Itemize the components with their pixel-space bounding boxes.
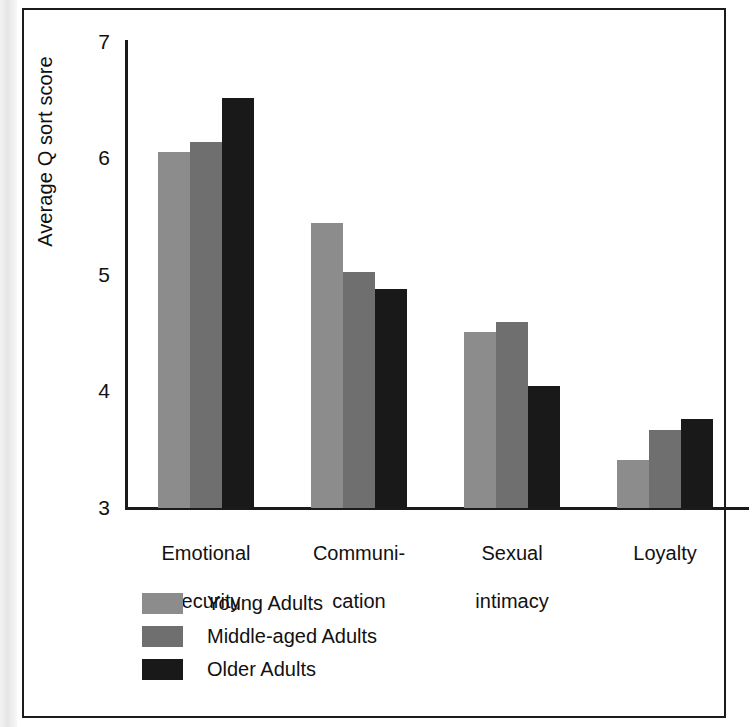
category-label-loyalty: Loyalty [565,517,753,613]
y-tick-7: 7 [84,31,110,52]
bar-middle-communication[interactable] [343,272,375,508]
plot-area [125,42,749,508]
bar-older-sexual-intimacy[interactable] [528,386,560,508]
y-tick-3: 3 [84,497,110,518]
bar-middle-loyalty[interactable] [649,430,681,508]
category-line-1: Sexual [481,542,542,564]
bar-young-communication[interactable] [311,223,343,508]
bar-older-emotional-security[interactable] [222,98,254,508]
figure-frame: Average Q sort score 7 6 5 4 3 [22,8,726,718]
bar-young-loyalty[interactable] [617,460,649,508]
category-line-1: Communi- [313,542,405,564]
legend-swatch-young-adults [142,593,183,614]
page-gutter-shadow [0,0,17,727]
bar-older-communication[interactable] [375,289,407,508]
y-tick-5: 5 [84,264,110,285]
legend: Young Adults Middle-aged Adults Older Ad… [142,588,377,687]
legend-item-young-adults[interactable]: Young Adults [142,588,377,618]
legend-label-older-adults: Older Adults [207,658,316,681]
bar-young-sexual-intimacy[interactable] [464,332,496,508]
bar-middle-emotional-security[interactable] [190,142,222,508]
legend-label-young-adults: Young Adults [207,592,323,615]
y-axis-title: Average Q sort score [34,0,57,317]
category-line-2: intimacy [475,590,548,612]
bar-young-emotional-security[interactable] [158,152,190,508]
y-tick-6: 6 [84,147,110,168]
bar-middle-sexual-intimacy[interactable] [496,322,528,508]
y-tick-4: 4 [84,380,110,401]
bar-older-loyalty[interactable] [681,419,713,508]
legend-label-middle-aged-adults: Middle-aged Adults [207,625,377,648]
category-line-1: Emotional [162,542,251,564]
legend-item-older-adults[interactable]: Older Adults [142,654,377,684]
legend-item-middle-aged-adults[interactable]: Middle-aged Adults [142,621,377,651]
legend-swatch-middle-aged-adults [142,626,183,647]
legend-swatch-older-adults [142,659,183,680]
category-line-1: Loyalty [633,542,696,564]
